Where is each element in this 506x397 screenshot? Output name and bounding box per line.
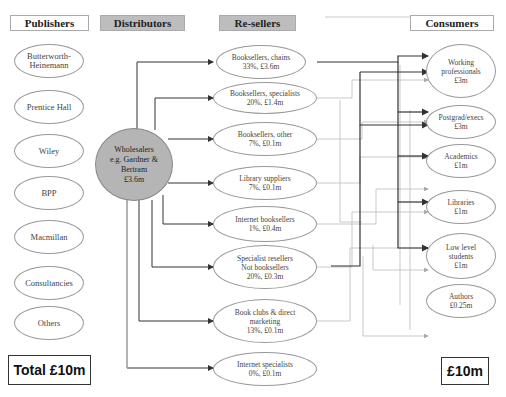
header-publishers: Publishers xyxy=(10,15,89,31)
publisher-node: Prentice Hall xyxy=(14,90,84,124)
reseller-node: Booksellers, specialists20%, £1.4m xyxy=(213,82,317,114)
reseller-node: Booksellers, other7%, £0.1m xyxy=(213,122,317,156)
total-right: £10m xyxy=(441,357,489,385)
consumer-node: Workingprofessionals£3m xyxy=(426,44,496,98)
publisher-node: Others xyxy=(14,306,84,340)
reseller-node: Book clubs & directmarketing13%, £0.1m xyxy=(213,299,317,343)
total-left: Total £10m xyxy=(8,355,91,385)
consumer-node: Low levelstudents£1m xyxy=(426,233,496,279)
header-resellers: Re-sellers xyxy=(219,15,296,31)
header-distributors: Distributors xyxy=(100,15,185,31)
consumer-node: Academics£1m xyxy=(426,144,496,178)
consumer-node: Libraries£1m xyxy=(426,190,496,224)
reseller-node: Booksellers, chains33%, £3.6m xyxy=(216,45,306,79)
publisher-node: Butterworth-Heinemann xyxy=(14,44,84,78)
consumer-node: Authors£0.25m xyxy=(426,284,496,318)
reseller-node: Internet specialists0%, £0.1m xyxy=(213,352,317,386)
publisher-node: Macmillan xyxy=(14,220,84,254)
reseller-node: Specialist resellersNot booksellers20%, … xyxy=(213,245,317,289)
reseller-node: Internet booksellers1%, £0.4m xyxy=(213,206,317,242)
publisher-node: Consultancies xyxy=(14,266,84,300)
publisher-node: Wiley xyxy=(14,134,84,168)
publisher-node: BPP xyxy=(14,176,84,210)
consumer-node: Postgrad/execs£3m xyxy=(426,105,496,139)
header-consumers: Consumers xyxy=(410,15,494,31)
wholesaler-node: Wholesalers e.g. Gardner & Bertram £3.6m xyxy=(95,128,173,201)
reseller-node: Library suppliers7%, £0.1m xyxy=(213,166,317,200)
